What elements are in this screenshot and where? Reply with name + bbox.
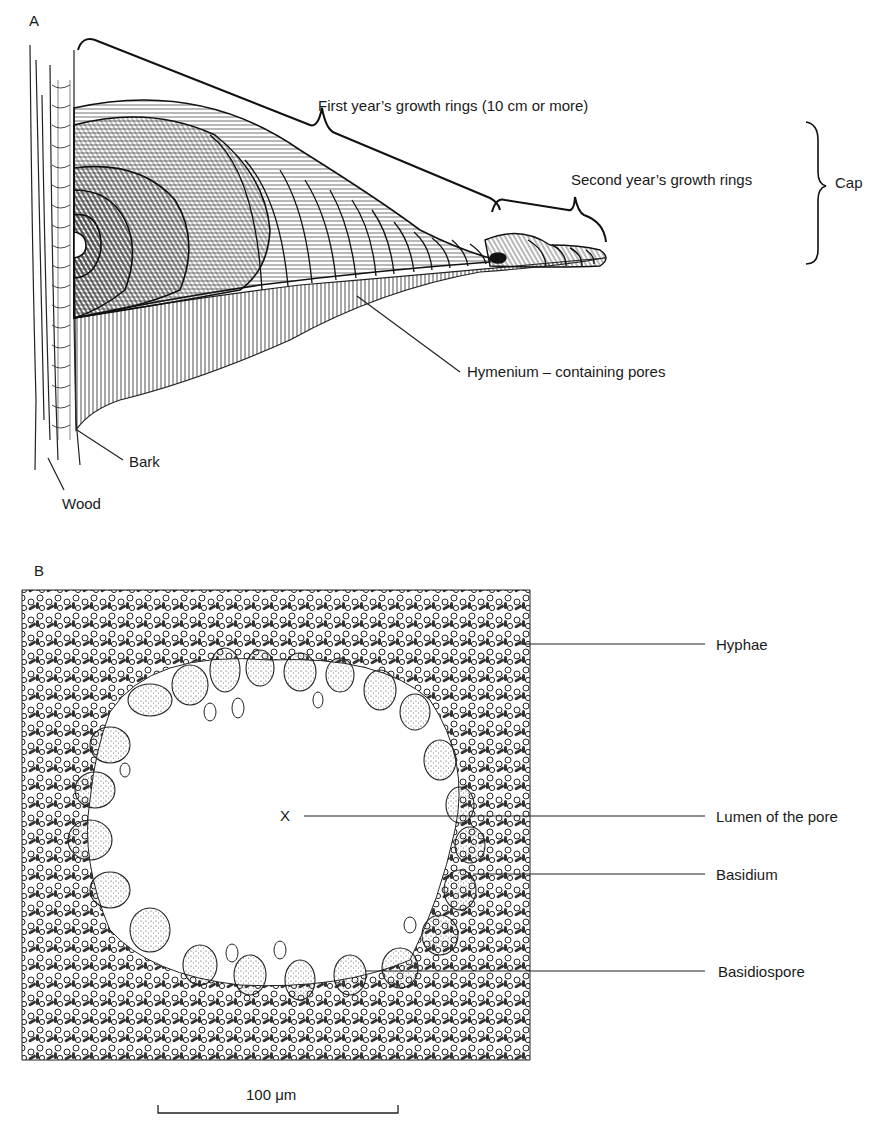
label-lumen-marker: X [280, 807, 290, 825]
label-lumen: Lumen of the pore [716, 808, 838, 826]
scale-bar-label: 100 μm [246, 1086, 296, 1104]
label-basidiospore: Basidiospore [718, 963, 805, 981]
scale-bar [158, 1105, 398, 1113]
label-hyphae: Hyphae [716, 636, 768, 654]
label-basidium: Basidium [716, 866, 778, 884]
